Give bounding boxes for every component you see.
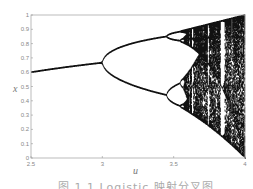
y-tick-label: 0.4 [21, 98, 30, 104]
y-tick-label: 0.1 [21, 141, 30, 147]
y-tick-label: 0.8 [21, 41, 30, 47]
y-tick-label: 0.5 [21, 84, 30, 90]
x-tick-label: 3 [101, 161, 105, 167]
bifurcation-points [31, 14, 246, 159]
y-axis-label: x [12, 83, 18, 94]
bifurcation-chart: 00.10.20.30.40.50.60.70.80.91 2.533.54 x… [0, 0, 253, 189]
x-tick-label: 2.5 [27, 161, 36, 167]
y-tick-label: 0.3 [21, 112, 30, 118]
x-tick-label: 4 [243, 161, 247, 167]
y-tick-label: 0.7 [21, 55, 30, 61]
y-tick-label: 1 [26, 12, 30, 18]
y-tick-label: 0.2 [21, 126, 30, 132]
y-tick-label: 0.6 [21, 69, 30, 75]
x-tick-label: 3.5 [169, 161, 178, 167]
y-tick-label: 0.9 [21, 26, 30, 32]
figure-caption: 图 1.1 Logistic 映射分叉图 [58, 178, 214, 189]
x-axis-label: u [133, 165, 138, 176]
